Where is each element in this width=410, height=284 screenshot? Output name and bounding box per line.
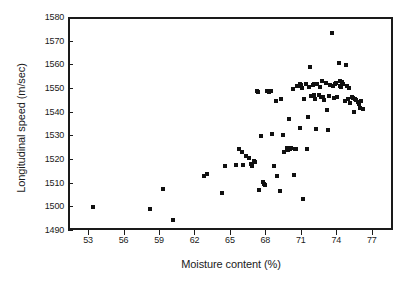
x-tick-label: 68: [250, 236, 280, 245]
y-tick-label: 1510: [34, 179, 64, 188]
x-tick-label: 56: [109, 236, 139, 245]
x-tick-label: 59: [144, 236, 174, 245]
y-tick-label: 1530: [34, 131, 64, 140]
x-tick-label: 53: [73, 236, 103, 245]
y-tick-mark: [68, 135, 73, 136]
y-tick-mark: [68, 88, 73, 89]
plot-area-frame: [68, 17, 393, 230]
x-tick-mark: [88, 230, 89, 235]
x-tick-label: 65: [215, 236, 245, 245]
y-tick-mark: [68, 206, 73, 207]
x-tick-mark: [336, 230, 337, 235]
y-tick-mark: [68, 41, 73, 42]
x-tick-mark: [159, 230, 160, 235]
y-axis-tick-labels: 1490150015101520153015401550156015701580: [34, 17, 64, 230]
x-tick-mark: [301, 230, 302, 235]
y-tick-label: 1520: [34, 155, 64, 164]
y-tick-mark: [68, 230, 73, 231]
y-axis-title: Longitudinal speed (m/sec): [14, 12, 28, 244]
y-tick-mark: [68, 17, 73, 18]
y-tick-label: 1580: [34, 13, 64, 22]
x-axis-title: Moisture content (%): [68, 258, 394, 270]
x-tick-label: 71: [286, 236, 316, 245]
y-tick-label: 1570: [34, 37, 64, 46]
x-tick-mark: [230, 230, 231, 235]
y-tick-label: 1550: [34, 84, 64, 93]
y-tick-mark: [68, 183, 73, 184]
x-tick-label: 62: [179, 236, 209, 245]
y-tick-label: 1490: [34, 226, 64, 235]
x-tick-label: 74: [321, 236, 351, 245]
y-tick-label: 1560: [34, 60, 64, 69]
y-tick-label: 1540: [34, 108, 64, 117]
scatter-plot-figure: Longitudinal speed (m/sec) 1490150015101…: [0, 0, 410, 284]
y-tick-label: 1500: [34, 202, 64, 211]
x-tick-label: 77: [357, 236, 387, 245]
y-tick-mark: [68, 64, 73, 65]
x-tick-mark: [194, 230, 195, 235]
y-tick-mark: [68, 159, 73, 160]
x-tick-mark: [372, 230, 373, 235]
y-tick-mark: [68, 112, 73, 113]
x-tick-mark: [124, 230, 125, 235]
x-tick-mark: [265, 230, 266, 235]
